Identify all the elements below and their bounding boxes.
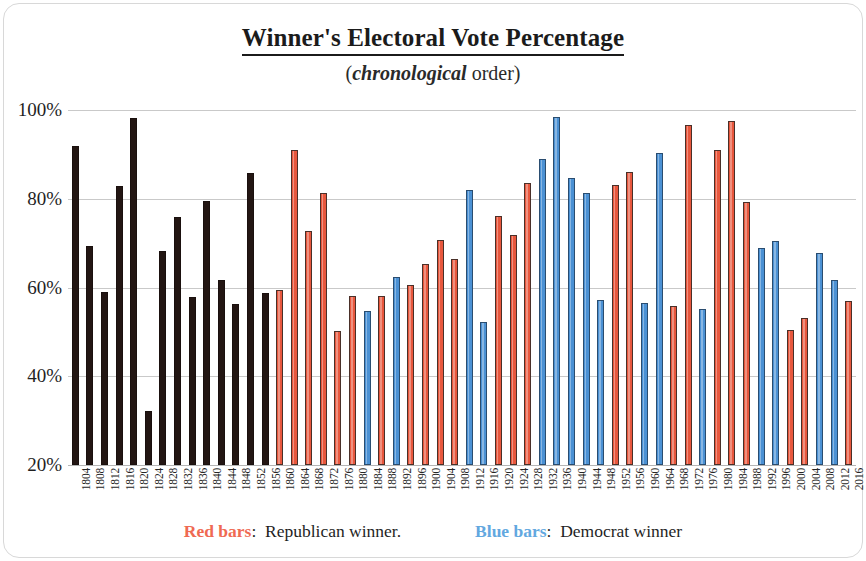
bar-1808 bbox=[86, 246, 93, 465]
bar-1832 bbox=[174, 217, 181, 466]
plot-area bbox=[68, 110, 856, 465]
x-axis-tick-label: 2012 bbox=[839, 468, 851, 512]
x-axis-tick-label: 1956 bbox=[634, 468, 646, 512]
x-axis-tick-label: 1856 bbox=[270, 468, 282, 512]
bar-1904 bbox=[437, 240, 444, 465]
x-axis-tick-label: 1816 bbox=[124, 468, 136, 512]
legend-red-description: Republican winner. bbox=[265, 521, 401, 541]
x-axis-tick-label: 1908 bbox=[459, 468, 471, 512]
y-axis-tick-label: 80% bbox=[0, 188, 62, 210]
x-axis-tick-label: 1996 bbox=[780, 468, 792, 512]
bar-1820 bbox=[130, 118, 137, 465]
bar-1828 bbox=[159, 251, 166, 465]
bar-1952 bbox=[612, 185, 619, 465]
y-axis-tick-label: 20% bbox=[0, 454, 62, 476]
x-axis-tick-label: 1884 bbox=[372, 468, 384, 512]
x-axis-tick-label: 1900 bbox=[430, 468, 442, 512]
bar-2004 bbox=[801, 318, 808, 465]
x-axis-tick-label: 1968 bbox=[678, 468, 690, 512]
x-axis-tick-label: 1912 bbox=[474, 468, 486, 512]
x-axis-tick-label: 1836 bbox=[197, 468, 209, 512]
y-axis-tick-label: 100% bbox=[0, 99, 62, 121]
x-axis-tick-label: 1984 bbox=[737, 468, 749, 512]
bar-1940 bbox=[568, 178, 575, 465]
gridline bbox=[68, 110, 856, 111]
bar-1928 bbox=[524, 183, 531, 465]
bar-2000 bbox=[787, 330, 794, 465]
x-axis-tick-label: 1964 bbox=[664, 468, 676, 512]
x-axis-tick-label: 1904 bbox=[445, 468, 457, 512]
axis-baseline bbox=[68, 465, 856, 466]
y-axis: 20%40%60%80%100% bbox=[0, 0, 62, 561]
x-axis-tick-label: 1868 bbox=[313, 468, 325, 512]
bar-2016 bbox=[845, 301, 852, 465]
bar-1972 bbox=[685, 125, 692, 465]
x-axis-tick-label: 1824 bbox=[153, 468, 165, 512]
x-axis-tick-label: 1892 bbox=[401, 468, 413, 512]
bar-1816 bbox=[116, 186, 123, 465]
x-axis-tick-label: 1852 bbox=[255, 468, 267, 512]
bar-1804 bbox=[72, 146, 79, 466]
x-axis-tick-label: 1880 bbox=[357, 468, 369, 512]
legend-entry-republican: Red bars: Republican winner. bbox=[184, 521, 401, 542]
bar-1852 bbox=[247, 173, 254, 465]
bar-1908 bbox=[451, 259, 458, 465]
bar-1984 bbox=[728, 121, 735, 465]
y-axis-tick-label: 40% bbox=[0, 365, 62, 387]
x-axis-tick-label: 1872 bbox=[328, 468, 340, 512]
bar-1956 bbox=[626, 172, 633, 465]
x-axis-tick-label: 1936 bbox=[561, 468, 573, 512]
x-axis-tick-label: 1808 bbox=[94, 468, 106, 512]
x-axis-tick-label: 1864 bbox=[299, 468, 311, 512]
bar-1840 bbox=[203, 201, 210, 465]
gridline bbox=[68, 199, 856, 200]
bar-1936 bbox=[553, 117, 560, 465]
legend-entry-democrat: Blue bars: Democrat winner bbox=[475, 521, 682, 542]
x-axis-tick-label: 1928 bbox=[532, 468, 544, 512]
bar-1968 bbox=[670, 306, 677, 465]
bar-1884 bbox=[364, 311, 371, 465]
bar-1888 bbox=[378, 296, 385, 465]
bar-1992 bbox=[758, 248, 765, 465]
x-axis-tick-label: 1948 bbox=[605, 468, 617, 512]
bar-1988 bbox=[743, 202, 750, 465]
bar-1948 bbox=[597, 300, 604, 465]
bar-1836 bbox=[189, 297, 196, 465]
legend-blue-description: Democrat winner bbox=[560, 521, 682, 541]
bar-1996 bbox=[772, 241, 779, 465]
x-axis-tick-label: 2016 bbox=[853, 468, 865, 512]
bar-1864 bbox=[291, 150, 298, 465]
bar-1896 bbox=[407, 285, 414, 465]
bar-1912 bbox=[466, 190, 473, 465]
x-axis-tick-label: 1848 bbox=[240, 468, 252, 512]
x-axis-tick-label: 1924 bbox=[518, 468, 530, 512]
bar-1812 bbox=[101, 292, 108, 465]
x-axis-tick-label: 1980 bbox=[722, 468, 734, 512]
x-axis-tick-label: 1988 bbox=[751, 468, 763, 512]
x-axis-labels: 1804180818121816182018241828183218361840… bbox=[68, 468, 856, 512]
bar-1856 bbox=[262, 293, 269, 465]
x-axis-tick-label: 1944 bbox=[591, 468, 603, 512]
legend-blue-key: Blue bars bbox=[475, 521, 546, 541]
bar-1960 bbox=[641, 303, 648, 465]
bar-1872 bbox=[320, 193, 327, 465]
y-axis-tick-label: 60% bbox=[0, 277, 62, 299]
x-axis-tick-label: 1992 bbox=[766, 468, 778, 512]
bar-1964 bbox=[656, 153, 663, 465]
x-axis-tick-label: 1920 bbox=[503, 468, 515, 512]
bar-1920 bbox=[495, 216, 502, 465]
x-axis-tick-label: 1804 bbox=[80, 468, 92, 512]
bar-1848 bbox=[232, 304, 239, 465]
bar-1924 bbox=[510, 235, 517, 465]
bar-1844 bbox=[218, 280, 225, 465]
x-axis-tick-label: 1876 bbox=[343, 468, 355, 512]
bar-1892 bbox=[393, 277, 400, 465]
bar-1916 bbox=[480, 322, 487, 465]
bar-2012 bbox=[831, 280, 838, 465]
bar-1880 bbox=[349, 296, 356, 465]
bar-1944 bbox=[583, 193, 590, 465]
x-axis-tick-label: 1932 bbox=[547, 468, 559, 512]
bar-1900 bbox=[422, 264, 429, 465]
x-axis-tick-label: 1844 bbox=[226, 468, 238, 512]
x-axis-tick-label: 1812 bbox=[109, 468, 121, 512]
